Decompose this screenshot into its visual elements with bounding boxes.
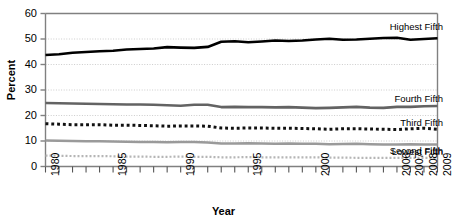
x-tick-label: 1985 [117,152,128,175]
y-tick-label: 10 [11,135,37,146]
series-label-fourth-fifth: Fourth Fifth [394,94,443,104]
series-line-4 [46,156,438,158]
series-line-1 [46,103,438,108]
series-label-highest-fifth: Highest Fifth [390,22,443,32]
series-line-0 [46,38,438,55]
x-tick-label: 1995 [252,152,263,175]
y-tick-label: 20 [11,110,37,121]
series-line-2 [46,124,438,130]
y-tick-label: 0 [11,161,37,172]
x-axis-title: Year [0,205,447,217]
y-tick-label: 50 [11,33,37,44]
series-label-third-fifth: Third Fifth [400,118,443,128]
y-tick-label: 30 [11,84,37,95]
series-label-lowest-fifth: Lowest Fifth [392,147,443,157]
x-tick-label: 2000 [320,152,331,175]
x-tick-label: 1980 [50,152,61,175]
x-tick-label: 2009 [442,152,453,175]
y-tick-label: 60 [11,8,37,19]
y-tick-label: 40 [11,59,37,70]
x-tick-label: 1990 [185,152,196,175]
